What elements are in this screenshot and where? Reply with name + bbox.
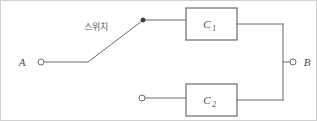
terminal-a-label: A: [18, 56, 26, 68]
figure-border: [1, 1, 317, 121]
switch-contact-dot[interactable]: [141, 18, 145, 22]
capacitor-c1-label: C: [203, 18, 211, 30]
capacitor-c2-subscript: 2: [212, 100, 216, 109]
terminal-lower-branch-marker[interactable]: [139, 95, 145, 101]
capacitor-c2-label: C: [203, 94, 211, 106]
switch-label: 스위치: [84, 21, 108, 32]
terminal-b-marker[interactable]: [290, 59, 296, 65]
terminal-a-marker[interactable]: [38, 59, 44, 65]
terminal-b-label: B: [304, 56, 311, 68]
capacitor-c1-subscript: 1: [212, 24, 216, 33]
circuit-diagram-figure: A B 스위치 C 1 C 2: [0, 0, 317, 121]
circuit-diagram-canvas: A B 스위치 C 1 C 2: [0, 0, 317, 121]
